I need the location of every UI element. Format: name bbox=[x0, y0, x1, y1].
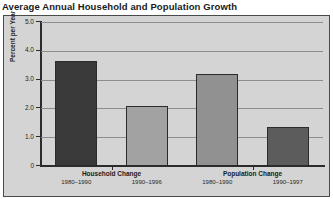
gridline bbox=[41, 51, 323, 52]
plot-area bbox=[41, 22, 323, 166]
bar-period-label: 1990–1997 bbox=[248, 179, 328, 185]
y-tick-label: 4.0 bbox=[2, 46, 34, 53]
y-tick-label: 2.0 bbox=[2, 104, 34, 111]
y-tick-label: 0 bbox=[2, 162, 34, 169]
bar bbox=[196, 74, 238, 166]
x-major-tick bbox=[253, 166, 254, 170]
group-label: Household Change bbox=[57, 170, 167, 177]
bar bbox=[55, 61, 97, 166]
bar bbox=[126, 106, 168, 166]
bar-period-label: 1980–1990 bbox=[36, 179, 116, 185]
y-tick-label: 1.0 bbox=[2, 133, 34, 140]
bar bbox=[267, 127, 309, 166]
chart-container: Average Annual Household and Population … bbox=[0, 0, 333, 199]
x-major-tick bbox=[112, 166, 113, 170]
y-tick-label: 3.0 bbox=[2, 75, 34, 82]
bar-period-label: 1990–1996 bbox=[107, 179, 187, 185]
chart-title: Average Annual Household and Population … bbox=[2, 1, 332, 12]
bar-period-label: 1980–1990 bbox=[177, 179, 257, 185]
gridline bbox=[41, 22, 323, 23]
group-label: Population Change bbox=[198, 170, 308, 177]
y-tick-label: 5.0 bbox=[2, 18, 34, 25]
